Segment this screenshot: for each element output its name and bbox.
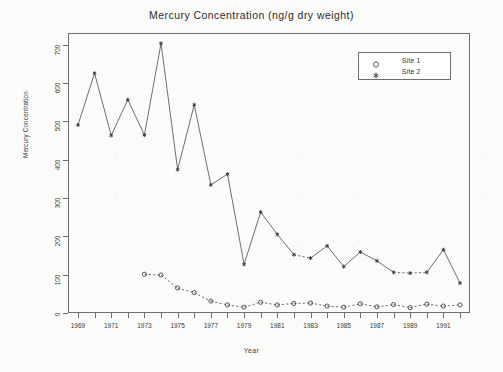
asterisk-marker [242,262,245,266]
series-segment [327,246,344,267]
series-segment [227,174,244,264]
x-tick-mark [327,313,328,318]
y-tick-label: 500 [55,121,62,132]
x-tick-mark [460,313,461,318]
series-segment [211,301,228,305]
asterisk-marker [109,133,112,137]
x-tick-mark [211,313,212,318]
series-segment [161,275,178,288]
series-segment [443,250,460,283]
x-tick-mark [144,313,145,318]
x-tick-label: 1991 [426,322,460,329]
circle-marker [192,291,196,295]
series-segment [360,252,377,261]
x-tick-mark [427,313,428,318]
y-tick-mark [63,160,68,161]
x-tick-mark [410,313,411,318]
series-segment [377,261,394,273]
series-segment [128,100,145,135]
x-tick-mark [227,313,228,318]
x-tick-mark [294,313,295,318]
asterisk-marker [209,183,212,187]
series-segment [78,73,95,125]
series-segment [277,234,294,254]
y-tick-mark [63,313,68,314]
series-1 [142,272,462,310]
series-segment [311,246,328,258]
x-tick-label: 1969 [61,322,95,329]
x-tick-mark [78,313,79,318]
series-segment [144,43,161,135]
y-tick-mark [63,83,68,84]
x-tick-mark [394,313,395,318]
x-tick-mark [311,313,312,318]
legend-entry: Site 2 [359,67,450,78]
series-segment [344,252,361,267]
x-tick-mark [244,313,245,318]
asterisk-marker [76,123,79,127]
series-segment [244,302,261,307]
series-segment [244,212,261,264]
x-tick-mark [261,313,262,318]
x-tick-label: 1989 [393,322,427,329]
x-tick-label: 1971 [94,322,128,329]
series-segment [211,174,228,185]
y-tick-label: 600 [55,82,62,93]
x-tick-mark [95,313,96,318]
x-tick-label: 1983 [294,322,328,329]
series-segment [261,212,278,234]
asterisk-marker [159,41,162,45]
series-segment [95,73,112,135]
y-tick-mark [63,236,68,237]
series-segment [194,293,211,301]
x-tick-mark [128,313,129,318]
x-axis-title: Year [0,347,503,354]
page-title: Mercury Concentration (ng/g dry weight) [0,9,503,21]
series-segment [294,255,311,258]
x-tick-label: 1979 [227,322,261,329]
figure-canvas: Mercury Concentration (ng/g dry weight) … [0,0,503,372]
series-segment [394,272,411,273]
series-segment [178,288,195,293]
y-tick-label: 700 [55,44,62,55]
asterisk-marker [193,103,196,107]
x-tick-label: 1985 [327,322,361,329]
asterisk-marker [176,168,179,172]
series-segment [194,105,211,185]
x-tick-mark [360,313,361,318]
y-tick-label: 400 [55,159,62,170]
legend-entry: Site 1 [359,56,450,67]
series-segment [161,43,178,169]
series-segment [427,250,444,273]
x-tick-label: 1975 [161,322,195,329]
x-tick-mark [161,313,162,318]
asterisk-marker [143,133,146,137]
series-segment [410,272,427,273]
asterisk-marker [375,259,378,263]
x-tick-mark [277,313,278,318]
series-segment [111,100,128,136]
x-tick-label: 1981 [260,322,294,329]
x-tick-label: 1987 [360,322,394,329]
asterisk-marker [373,73,378,79]
legend-label: Site 1 [402,57,420,64]
y-tick-label: 100 [55,274,62,285]
y-tick-mark [63,45,68,46]
x-tick-label: 1973 [127,322,161,329]
asterisk-marker [93,71,96,75]
legend-label: Site 2 [402,68,420,75]
legend: Site 1Site 2 [358,52,451,80]
x-tick-label: 1977 [194,322,228,329]
y-tick-label: 300 [55,197,62,208]
x-tick-mark [194,313,195,318]
y-tick-label: 0 [55,313,62,317]
y-tick-mark [63,121,68,122]
y-axis-title: Mercury Concentration [22,91,29,158]
y-tick-mark [63,198,68,199]
asterisk-marker [226,172,229,176]
x-tick-mark [443,313,444,318]
y-tick-mark [63,275,68,276]
y-tick-label: 200 [55,236,62,247]
x-tick-mark [178,313,179,318]
x-tick-mark [111,313,112,318]
